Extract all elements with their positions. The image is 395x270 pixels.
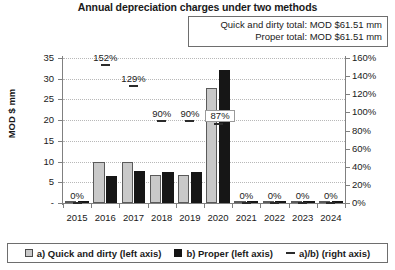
x-tick xyxy=(148,203,149,208)
y-tick-right xyxy=(345,112,350,113)
bar-quick-and-dirty xyxy=(178,175,189,203)
legend-label-ratio: a)/b) (right axis) xyxy=(299,248,370,259)
total-quick-and-dirty: Quick and dirty total: MOD $61.51 mm xyxy=(194,19,382,31)
legend-item-quick-and-dirty: a) Quick and dirty (left axis) xyxy=(25,248,162,259)
x-tick xyxy=(63,203,64,208)
square-black-icon xyxy=(174,249,182,257)
bar-proper xyxy=(134,171,145,203)
y-tick-label-left: 30 xyxy=(14,74,54,84)
y-tick-right xyxy=(345,58,350,59)
plot-area xyxy=(63,58,345,203)
y-tick-label-left: 25 xyxy=(14,94,54,104)
ratio-data-label: 152% xyxy=(82,53,128,63)
x-tick xyxy=(260,203,261,208)
bar-proper xyxy=(219,70,230,203)
y-tick-right xyxy=(345,131,350,132)
square-gray-icon xyxy=(25,249,33,257)
x-tick xyxy=(119,203,120,208)
y-tick-label-right: 160% xyxy=(352,53,395,63)
x-tick xyxy=(317,203,318,208)
x-tick xyxy=(289,203,290,208)
bar-quick-and-dirty xyxy=(122,162,133,203)
legend-item-proper: b) Proper (left axis) xyxy=(174,248,273,259)
y-tick-label-left: 20 xyxy=(14,115,54,125)
ratio-data-label: 0% xyxy=(54,191,100,201)
totals-callout-box: Quick and dirty total: MOD $61.51 mm Pro… xyxy=(188,16,388,47)
ratio-data-label: 129% xyxy=(111,74,157,84)
y-tick-label-right: 40% xyxy=(352,162,395,172)
y-tick-right xyxy=(345,185,350,186)
bar-proper xyxy=(191,172,202,203)
y-tick-label-right: 120% xyxy=(352,89,395,99)
ratio-marker xyxy=(73,202,82,204)
ratio-marker xyxy=(326,202,335,204)
y-tick-label-right: 100% xyxy=(352,107,395,117)
ratio-marker xyxy=(185,120,194,122)
bar-quick-and-dirty xyxy=(150,175,161,203)
ratio-marker xyxy=(298,202,307,204)
ratio-marker xyxy=(242,202,251,204)
bar-quick-and-dirty xyxy=(206,88,217,203)
legend-label-proper: b) Proper (left axis) xyxy=(186,248,273,259)
ratio-data-label: 0% xyxy=(308,191,354,201)
legend-item-ratio: a)/b) (right axis) xyxy=(286,248,370,259)
x-tick-label: 2024 xyxy=(311,212,351,223)
y-tick-right xyxy=(345,167,350,168)
y-tick-label-right: 80% xyxy=(352,126,395,136)
y-tick-right xyxy=(345,76,350,77)
y-tick-label-right: 60% xyxy=(352,144,395,154)
ratio-marker xyxy=(214,123,223,125)
depreciation-chart: Annual depreciation charges under two me… xyxy=(0,0,395,270)
y-tick-label-left: 10 xyxy=(14,157,54,167)
y-tick-label-left: 5 xyxy=(14,177,54,187)
ratio-marker xyxy=(157,120,166,122)
y-tick-label-left: 15 xyxy=(14,136,54,146)
y-tick-label-right: 0% xyxy=(352,198,395,208)
chart-title: Annual depreciation charges under two me… xyxy=(0,1,395,13)
total-proper: Proper total: MOD $61.51 mm xyxy=(194,31,382,43)
x-tick xyxy=(204,203,205,208)
x-tick xyxy=(345,203,346,208)
ratio-data-label: 87% xyxy=(205,110,235,122)
y-tick-right xyxy=(345,149,350,150)
legend-label-quick-and-dirty: a) Quick and dirty (left axis) xyxy=(37,248,162,259)
line-dash-icon xyxy=(286,252,295,254)
y-tick-label-right: 20% xyxy=(352,180,395,190)
y-tick-label-left: - xyxy=(14,198,54,208)
bar-proper xyxy=(162,172,173,203)
y-tick-right xyxy=(345,94,350,95)
x-tick xyxy=(91,203,92,208)
ratio-marker xyxy=(129,85,138,87)
x-tick xyxy=(232,203,233,208)
ratio-marker xyxy=(101,64,110,66)
chart-legend: a) Quick and dirty (left axis) b) Proper… xyxy=(7,243,388,263)
bar-proper xyxy=(106,176,117,203)
y-tick-label-right: 140% xyxy=(352,71,395,81)
x-tick xyxy=(176,203,177,208)
ratio-marker xyxy=(270,202,279,204)
y-tick-label-left: 35 xyxy=(14,53,54,63)
